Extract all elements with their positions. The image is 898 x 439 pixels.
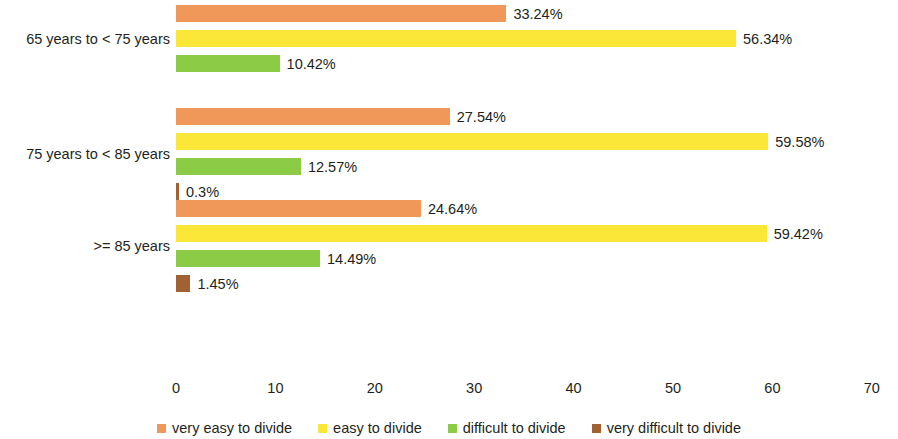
bar-very-difficult-to-divide[interactable] bbox=[176, 275, 190, 292]
bar-row[interactable]: 1.45% bbox=[176, 275, 390, 292]
bar-very-easy-to-divide[interactable] bbox=[176, 5, 506, 22]
legend-swatch-icon bbox=[318, 424, 327, 433]
bar-easy-to-divide[interactable] bbox=[176, 225, 767, 242]
bar-value-label: 59.58% bbox=[775, 134, 824, 149]
x-axis-tick: 20 bbox=[345, 381, 405, 396]
category-label: 75 years to < 85 years bbox=[0, 147, 170, 162]
legend-label: easy to divide bbox=[333, 421, 422, 436]
bar-easy-to-divide[interactable] bbox=[176, 30, 736, 47]
x-axis-tick: 70 bbox=[842, 381, 898, 396]
legend-item[interactable]: easy to divide bbox=[318, 421, 422, 436]
bar-group: 75 years to < 85 years27.54%59.58%12.57%… bbox=[0, 108, 898, 200]
bar-very-difficult-to-divide[interactable] bbox=[176, 183, 179, 200]
bar-row[interactable]: 27.54% bbox=[176, 108, 650, 125]
x-axis-tick: 0 bbox=[146, 381, 206, 396]
legend-label: very easy to divide bbox=[172, 421, 292, 436]
x-axis: 010203040506070 bbox=[0, 381, 898, 407]
bar-row[interactable]: 59.58% bbox=[176, 133, 898, 150]
bar-difficult-to-divide[interactable] bbox=[176, 55, 280, 72]
bar-easy-to-divide[interactable] bbox=[176, 133, 768, 150]
bar-value-label: 10.42% bbox=[287, 56, 336, 71]
legend-item[interactable]: very easy to divide bbox=[157, 421, 292, 436]
category-label: 65 years to < 75 years bbox=[0, 32, 170, 47]
x-axis-tick: 10 bbox=[245, 381, 305, 396]
category-label: >= 85 years bbox=[0, 239, 170, 254]
bar-difficult-to-divide[interactable] bbox=[176, 158, 301, 175]
legend-swatch-icon bbox=[448, 424, 457, 433]
bar-very-easy-to-divide[interactable] bbox=[176, 200, 421, 217]
legend-item[interactable]: very difficult to divide bbox=[592, 421, 741, 436]
bar-difficult-to-divide[interactable] bbox=[176, 250, 320, 267]
bar-row[interactable]: 56.34% bbox=[176, 30, 898, 47]
x-axis-tick: 40 bbox=[544, 381, 604, 396]
bar-very-easy-to-divide[interactable] bbox=[176, 108, 450, 125]
bar-row[interactable]: 24.64% bbox=[176, 200, 621, 217]
legend-swatch-icon bbox=[157, 424, 166, 433]
bar-value-label: 0.3% bbox=[186, 184, 219, 199]
x-axis-tick: 30 bbox=[444, 381, 504, 396]
bar-value-label: 12.57% bbox=[308, 159, 357, 174]
bar-row[interactable]: 0.3% bbox=[176, 183, 379, 200]
bar-row[interactable]: 12.57% bbox=[176, 158, 501, 175]
plot-area: 65 years to < 75 years33.24%56.34%10.42%… bbox=[0, 0, 898, 380]
bar-row[interactable]: 14.49% bbox=[176, 250, 520, 267]
bar-value-label: 1.45% bbox=[197, 276, 238, 291]
x-axis-tick: 60 bbox=[742, 381, 802, 396]
legend-item[interactable]: difficult to divide bbox=[448, 421, 566, 436]
bar-value-label: 33.24% bbox=[513, 6, 562, 21]
bar-row[interactable]: 10.42% bbox=[176, 55, 480, 72]
bar-row[interactable]: 59.42% bbox=[176, 225, 898, 242]
bar-value-label: 59.42% bbox=[774, 226, 823, 241]
bar-group: >= 85 years24.64%59.42%14.49%1.45% bbox=[0, 200, 898, 292]
bar-value-label: 27.54% bbox=[457, 109, 506, 124]
x-axis-tick: 50 bbox=[643, 381, 703, 396]
bar-row[interactable]: 33.24% bbox=[176, 5, 706, 22]
bar-value-label: 24.64% bbox=[428, 201, 477, 216]
legend-label: very difficult to divide bbox=[607, 421, 741, 436]
chart-legend: very easy to divideeasy to dividedifficu… bbox=[0, 417, 898, 439]
horizontal-bar-chart: 65 years to < 75 years33.24%56.34%10.42%… bbox=[0, 0, 898, 439]
bar-value-label: 56.34% bbox=[743, 31, 792, 46]
legend-swatch-icon bbox=[592, 424, 601, 433]
bar-group: 65 years to < 75 years33.24%56.34%10.42% bbox=[0, 5, 898, 72]
legend-label: difficult to divide bbox=[463, 421, 566, 436]
bar-value-label: 14.49% bbox=[327, 251, 376, 266]
